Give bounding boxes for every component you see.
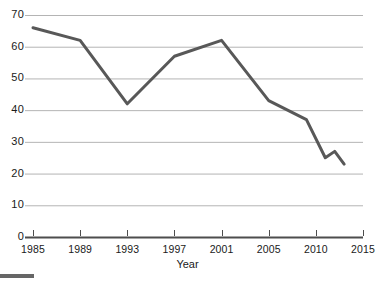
bottom-edge-marker [0,274,34,278]
y-tick-label: 50 [0,71,24,83]
x-tick-label: 1993 [107,243,147,255]
x-tick-label: 2010 [296,243,336,255]
y-tick-label: 70 [0,8,24,20]
y-tick-label: 20 [0,167,24,179]
y-tick-label: 0 [0,230,24,242]
x-tick-label: 2005 [249,243,289,255]
x-tick-label: 2015 [343,243,380,255]
x-tick-label: 2001 [202,243,242,255]
x-tick-label: 1997 [154,243,194,255]
data-line-series-1 [33,28,344,164]
y-tick-label: 60 [0,40,24,52]
x-tick-label: 1985 [13,243,53,255]
y-tick-label: 10 [0,198,24,210]
y-tick-label: 40 [0,103,24,115]
y-tick-label: 30 [0,135,24,147]
x-tick-label: 1989 [60,243,100,255]
x-axis-title: Year [0,258,375,270]
